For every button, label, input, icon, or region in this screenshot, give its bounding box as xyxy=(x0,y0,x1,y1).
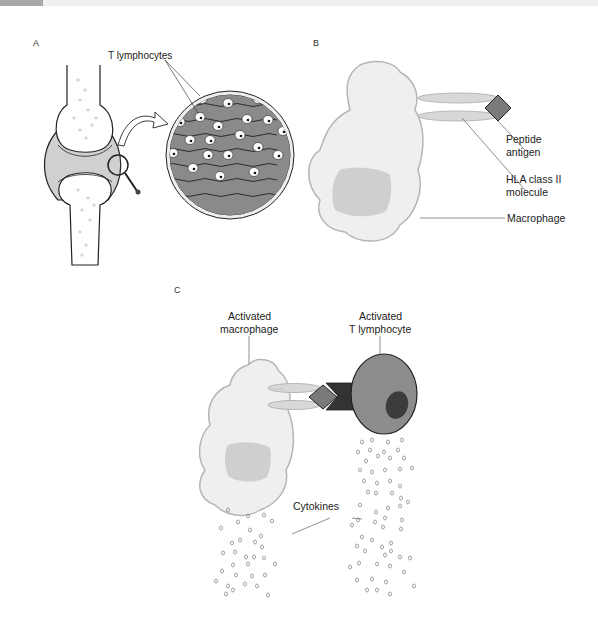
peptide-antigen-label-line2: antigen xyxy=(506,146,540,158)
hla-class-ii-label-line2: molecule xyxy=(506,186,548,198)
peptide-antigen-label-line1: Peptide xyxy=(506,133,542,145)
zoom-arrow-icon xyxy=(118,112,168,146)
macrophage-label: Macrophage xyxy=(507,212,565,224)
cytokines-label: Cytokines xyxy=(293,500,339,512)
activated-macrophage-label-line1: Activated xyxy=(228,310,271,322)
panel-a-letter: A xyxy=(33,38,39,48)
macrophage-b xyxy=(309,61,423,241)
knee-joint xyxy=(45,65,121,265)
zoomed-synovium-circle xyxy=(160,85,300,225)
t-lymphocytes-label: T lymphocytes xyxy=(108,50,172,62)
panel-c-letter: C xyxy=(174,285,181,295)
activated-t-lymphocyte-label-line1: Activated xyxy=(359,310,402,322)
activated-t-lymphocyte-label-line2: T lymphocyte xyxy=(349,323,411,335)
figure-canvas xyxy=(0,0,598,622)
activated-t-lymphocyte-c xyxy=(351,354,417,434)
hla-class-ii-label-line1: HLA class II xyxy=(506,173,561,185)
activated-macrophage-c xyxy=(200,360,294,516)
panel-b-letter: B xyxy=(313,38,319,48)
activated-macrophage-label-line2: macrophage xyxy=(220,323,278,335)
